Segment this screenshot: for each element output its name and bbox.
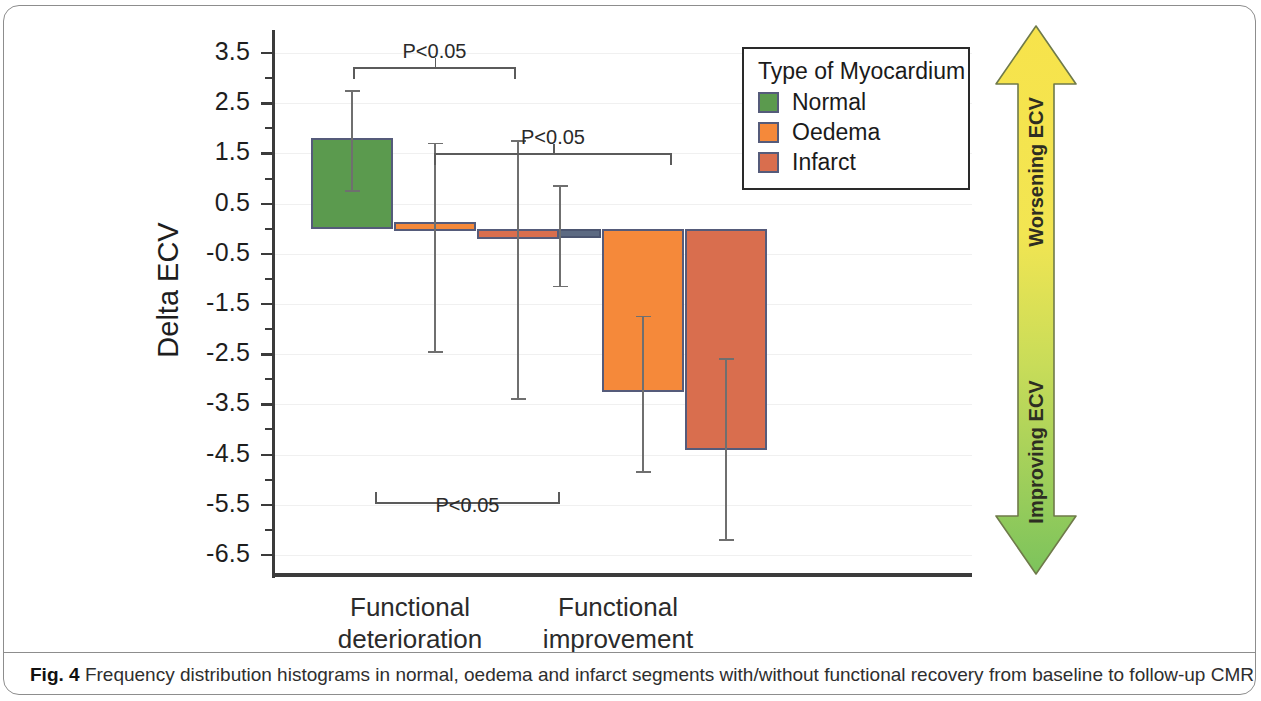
error-bar <box>351 91 353 191</box>
gridline <box>275 455 972 456</box>
significance-bracket <box>353 67 516 83</box>
legend-entries: NormalOedemaInfarct <box>758 89 954 176</box>
significance-bracket <box>434 153 672 169</box>
y-tick-label: -2.5 <box>206 338 250 367</box>
error-bar <box>725 359 727 540</box>
legend-label-normal: Normal <box>792 89 866 116</box>
bracket-arm <box>670 153 672 165</box>
error-bar <box>434 143 436 351</box>
y-tick-label: -1.5 <box>206 288 250 317</box>
legend-swatch-oedema <box>758 122 779 143</box>
error-bar <box>559 186 561 286</box>
y-tick-label: 1.5 <box>215 137 250 166</box>
bracket-span <box>434 153 672 155</box>
significance-label: P<0.05 <box>436 494 500 517</box>
legend-entry: Normal <box>758 89 954 116</box>
y-tick-label: 2.5 <box>215 87 250 116</box>
caption-text: Frequency distribution histograms in nor… <box>85 664 1254 685</box>
error-bar-cap <box>553 185 568 187</box>
y-tick-label: -0.5 <box>206 238 250 267</box>
y-axis-line <box>272 30 275 578</box>
legend-entry: Oedema <box>758 119 954 146</box>
error-bar-cap <box>428 143 443 145</box>
error-bar-cap <box>636 471 651 473</box>
legend-swatch-normal <box>758 92 779 113</box>
error-bar-cap <box>719 539 734 541</box>
y-tick-label: 3.5 <box>215 37 250 66</box>
bracket-arm <box>514 67 516 79</box>
chart-legend: Type of Myocardium NormalOedemaInfarct <box>742 47 970 190</box>
chart-plot: 3.52.51.50.5-0.5-1.5-2.5-3.5-4.5-5.5-6.5… <box>0 0 1261 660</box>
arrow-label-worsening: Worsening ECV <box>1025 97 1048 247</box>
error-bar-cap <box>345 190 360 192</box>
figure-page: 3.52.51.50.5-0.5-1.5-2.5-3.5-4.5-5.5-6.5… <box>0 0 1261 701</box>
legend-title: Type of Myocardium <box>758 58 954 85</box>
error-bar-cap <box>553 286 568 288</box>
gridline <box>275 555 972 556</box>
legend-swatch-infarct <box>758 152 779 173</box>
arrow-label-improving: Improving ECV <box>1025 380 1048 523</box>
error-bar-cap <box>428 351 443 353</box>
x-axis-line <box>272 573 972 577</box>
y-axis-label: Delta ECV <box>152 222 185 357</box>
error-bar <box>517 141 519 399</box>
gridline <box>275 404 972 405</box>
error-bar-cap <box>511 398 526 400</box>
error-bar <box>642 317 644 473</box>
y-tick-label: -4.5 <box>206 439 250 468</box>
x-category-label-improvement: Functional improvement <box>543 592 693 655</box>
bracket-arm <box>353 67 355 79</box>
legend-label-infarct: Infarct <box>792 149 856 176</box>
legend-entry: Infarct <box>758 149 954 176</box>
x-category-label-deterioration: Functional deterioration <box>338 592 483 655</box>
y-tick-label: -5.5 <box>206 489 250 518</box>
y-tick-label: -6.5 <box>206 539 250 568</box>
caption-prefix: Fig. 4 <box>30 664 80 685</box>
figure-caption: Fig. 4 Frequency distribution histograms… <box>30 663 1240 688</box>
y-tick-label: 0.5 <box>215 188 250 217</box>
y-tick-label: -3.5 <box>206 388 250 417</box>
error-bar-cap <box>345 90 360 92</box>
gridline <box>275 505 972 506</box>
significance-label: P<0.05 <box>403 40 467 63</box>
significance-label: P<0.05 <box>521 126 585 149</box>
bracket-span <box>353 67 516 69</box>
bracket-arm <box>375 492 377 504</box>
ecv-direction-arrow: Worsening ECV Improving ECV <box>990 22 1082 578</box>
bracket-arm <box>558 492 560 504</box>
legend-label-oedema: Oedema <box>792 119 880 146</box>
caption-divider <box>3 652 1256 653</box>
error-bar-cap <box>636 316 651 318</box>
bracket-arm <box>434 153 436 165</box>
error-bar-cap <box>719 358 734 360</box>
